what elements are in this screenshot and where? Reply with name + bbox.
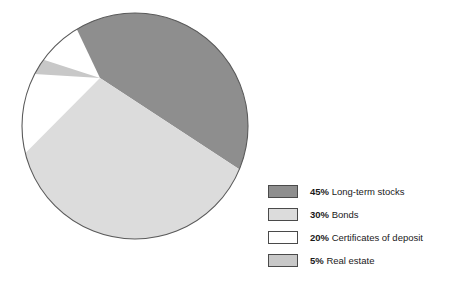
legend-label-bonds: Bonds: [329, 209, 359, 220]
legend-item-long-term-stocks[interactable]: 45% Long-term stocks: [268, 182, 448, 201]
legend-swatch-real-estate: [268, 254, 298, 267]
legend-label-long-term-stocks: Long-term stocks: [329, 186, 405, 197]
pie-chart-graphic: [20, 10, 254, 246]
legend-text-bonds: 30% Bonds: [310, 209, 359, 221]
legend-swatch-bonds: [268, 208, 298, 221]
legend-percent-certificates-of-deposit: 20%: [310, 232, 329, 243]
legend-label-certificates-of-deposit: Certificates of deposit: [329, 232, 423, 243]
legend-percent-long-term-stocks: 45%: [310, 186, 329, 197]
pie-svg: [20, 10, 254, 246]
legend-label-real-estate: Real estate: [324, 255, 375, 266]
legend: 45% Long-term stocks 30% Bonds 20% Certi…: [268, 182, 448, 274]
legend-text-long-term-stocks: 45% Long-term stocks: [310, 186, 405, 198]
pie-chart-figure: 45% Long-term stocks 30% Bonds 20% Certi…: [0, 0, 451, 281]
legend-swatch-certificates-of-deposit: [268, 231, 298, 244]
legend-swatch-long-term-stocks: [268, 185, 298, 198]
legend-item-bonds[interactable]: 30% Bonds: [268, 205, 448, 224]
legend-text-certificates-of-deposit: 20% Certificates of deposit: [310, 232, 423, 244]
legend-item-certificates-of-deposit[interactable]: 20% Certificates of deposit: [268, 228, 448, 247]
legend-text-real-estate: 5% Real estate: [310, 255, 374, 267]
legend-item-real-estate[interactable]: 5% Real estate: [268, 251, 448, 270]
legend-percent-bonds: 30%: [310, 209, 329, 220]
legend-percent-real-estate: 5%: [310, 255, 324, 266]
